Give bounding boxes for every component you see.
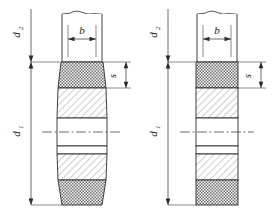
right-band-hatch-lower [196, 154, 238, 180]
left-band-hatch-upper [57, 88, 107, 118]
left-band-blank-thin [57, 146, 107, 154]
wavy-break-line-icon [62, 11, 102, 14]
left-dim-d2 [29, 9, 60, 62]
label-d1-letter: d [10, 131, 22, 137]
right-band-blank-thin [196, 146, 238, 154]
label-d2-subscript: 2 [17, 26, 25, 30]
label-d2-subscript: 2 [154, 26, 162, 30]
label-d1-subscript: 1 [17, 126, 25, 130]
right-band-knurl-top [196, 62, 238, 88]
label-s: s [241, 74, 253, 78]
left-figure: d 2 d 1 b s [10, 9, 131, 205]
drawing-canvas: d 2 d 1 b s [0, 0, 279, 214]
left-band-knurl-bottom [58, 180, 106, 205]
label-b: b [79, 24, 85, 36]
left-body [57, 62, 107, 205]
label-b: b [214, 24, 220, 36]
technical-drawing-svg: d 2 d 1 b s [0, 0, 279, 214]
right-dim-d1 [166, 62, 196, 205]
right-dim-d2 [166, 9, 195, 62]
label-d2-letter: d [10, 32, 22, 38]
right-figure: d 2 d 1 b s [147, 9, 266, 205]
label-d1-letter: d [147, 131, 159, 137]
right-band-knurl-bottom [196, 180, 238, 205]
left-band-hatch-lower [57, 154, 107, 180]
left-band-knurl-top [58, 62, 106, 88]
label-d2-letter: d [147, 32, 159, 38]
label-s: s [106, 74, 118, 78]
right-band-hatch-upper [196, 88, 238, 118]
wavy-break-line-icon [197, 11, 237, 14]
label-d1-subscript: 1 [154, 126, 162, 130]
right-body [196, 62, 238, 205]
